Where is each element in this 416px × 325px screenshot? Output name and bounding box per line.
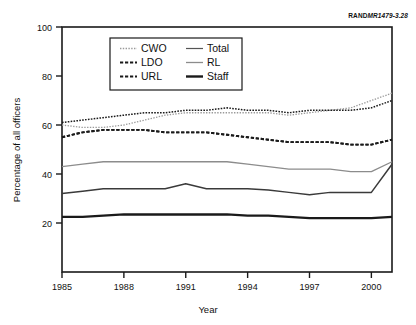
series-line-total bbox=[62, 101, 392, 123]
y-axis-ticks: 20406080100 bbox=[37, 23, 62, 229]
series-line-rl bbox=[62, 162, 392, 172]
x-tick-label: 1985 bbox=[52, 282, 72, 292]
series-line-ldo-lower bbox=[62, 164, 392, 195]
x-tick-label: 1994 bbox=[238, 282, 258, 292]
series-group bbox=[62, 93, 392, 218]
x-tick-label: 1988 bbox=[114, 282, 134, 292]
y-tick-label: 20 bbox=[42, 219, 52, 229]
source-tag: RANDMR1479-3.28 bbox=[348, 12, 408, 19]
chart-figure: RANDMR1479-3.28 20406080100 198519881991… bbox=[0, 0, 416, 325]
x-axis-title: Year bbox=[198, 304, 217, 315]
x-axis-ticks: 198519881991199419972000 bbox=[52, 272, 381, 292]
series-line-ldo bbox=[62, 130, 392, 145]
chart-legend: CWOTotalLDORLURLStaff bbox=[110, 38, 242, 90]
legend-label-url: URL bbox=[141, 70, 162, 82]
source-tag-id: MR1479-3.28 bbox=[368, 12, 408, 19]
x-tick-label: 1997 bbox=[299, 282, 319, 292]
series-line-url bbox=[62, 130, 392, 145]
x-tick-label: 1991 bbox=[176, 282, 196, 292]
legend-label-staff: Staff bbox=[207, 70, 228, 82]
legend-label-cwo: CWO bbox=[141, 42, 167, 54]
series-line-staff bbox=[62, 214, 392, 218]
y-tick-label: 60 bbox=[42, 121, 52, 131]
y-axis-title: Percentage of all officers bbox=[11, 98, 22, 203]
x-tick-label: 2000 bbox=[361, 282, 381, 292]
line-chart: 20406080100 198519881991199419972000 Yea… bbox=[0, 0, 416, 325]
y-tick-label: 40 bbox=[42, 170, 52, 180]
legend-label-rl: RL bbox=[207, 56, 221, 68]
legend-label-ldo: LDO bbox=[141, 56, 163, 68]
y-tick-label: 80 bbox=[42, 72, 52, 82]
y-tick-label: 100 bbox=[37, 23, 52, 33]
legend-label-total: Total bbox=[207, 42, 229, 54]
source-tag-prefix: RAND bbox=[348, 12, 367, 19]
